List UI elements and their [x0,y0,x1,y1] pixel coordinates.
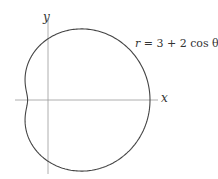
x-axis-label: x [161,91,168,105]
equation-label: r = 3 + 2 cos θ [135,37,218,50]
polar-plot [0,0,218,179]
equation-lhs: r [135,37,140,50]
equation-rhs: = 3 + 2 cos θ [144,37,218,50]
y-axis-label: y [43,10,50,24]
